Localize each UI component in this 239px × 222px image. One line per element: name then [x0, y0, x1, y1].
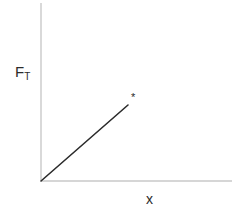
asterisk-marker-icon: *: [131, 92, 135, 103]
y-axis-label: FT: [15, 64, 30, 79]
data-series-line: [41, 105, 128, 181]
x-axis-label: x: [146, 192, 153, 206]
plot-canvas: [0, 0, 239, 222]
y-axis-label-subscript: T: [24, 71, 30, 82]
y-axis-label-base: F: [15, 63, 24, 80]
plot-figure: FT x *: [0, 0, 239, 222]
